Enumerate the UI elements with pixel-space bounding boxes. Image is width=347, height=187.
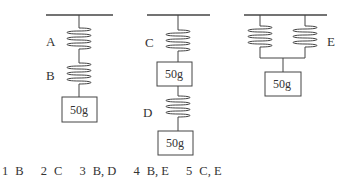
choice-2[interactable]: 2C — [41, 164, 63, 179]
weight-2-label: 50g — [165, 67, 183, 81]
spring-c — [166, 30, 190, 51]
label-d: D — [143, 105, 152, 120]
spring-a — [67, 28, 91, 49]
weight-4-label: 50g — [273, 77, 291, 91]
label-e: E — [327, 34, 335, 49]
choice-5[interactable]: 5C, E — [186, 164, 221, 179]
weight-3-label: 50g — [166, 136, 184, 150]
spring-d — [166, 96, 190, 117]
spring-b — [67, 63, 91, 84]
spring-diagram: A B C D E 50g 50g 50g 50g — [0, 0, 347, 187]
spring-e — [293, 26, 317, 47]
weight-1-label: 50g — [70, 103, 88, 117]
spring-left-parallel — [248, 26, 272, 47]
choice-3[interactable]: 3B, D — [79, 164, 116, 179]
choice-1[interactable]: 1B — [2, 164, 24, 179]
label-a: A — [46, 34, 56, 49]
label-b: B — [46, 68, 55, 83]
answer-choices: 1B 2C 3B, D 4B, E 5C, E — [2, 164, 236, 179]
choice-4[interactable]: 4B, E — [133, 164, 168, 179]
label-c: C — [145, 35, 154, 50]
